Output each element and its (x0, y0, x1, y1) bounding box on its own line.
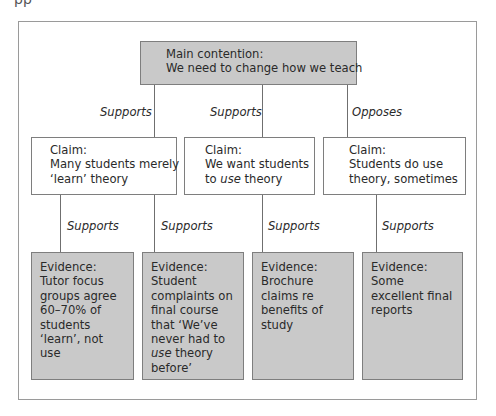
evidence-text: groups agree (40, 289, 133, 303)
main-contention-heading: Main contention: (166, 47, 356, 61)
claim-box: Claim: Many students merely ‘learn’ theo… (31, 137, 177, 195)
evidence-text: 60–70% of (40, 303, 133, 317)
evidence-text: use theory (151, 346, 243, 360)
connector-claim2-evidence3 (262, 195, 263, 252)
evidence-heading: Evidence: (40, 260, 133, 274)
evidence-box: Evidence: Brochure claims re benefits of… (252, 252, 354, 380)
evidence-box: Evidence: Student complaints on final co… (142, 252, 244, 380)
relation-label-opposes: Opposes (352, 105, 402, 119)
relation-label-supports: Supports (100, 105, 152, 119)
evidence-text: use (40, 346, 133, 360)
evidence-text: benefits of (261, 303, 353, 317)
claim-text: Many students merely (50, 157, 176, 171)
evidence-text: Student (151, 274, 243, 288)
evidence-text: study (261, 318, 353, 332)
evidence-text: final course (151, 303, 243, 317)
clipped-header-text: pp (14, 0, 32, 7)
connector-main-claim1 (154, 85, 155, 137)
evidence-text: excellent final (371, 289, 462, 303)
relation-label-supports: Supports (210, 105, 262, 119)
evidence-text: Brochure (261, 274, 353, 288)
connector-claim1-evidence1 (60, 195, 61, 252)
evidence-text: complaints on (151, 289, 243, 303)
connector-claim1-evidence2 (154, 195, 155, 252)
claim-heading: Claim: (349, 143, 465, 157)
evidence-text: before’ (151, 361, 243, 375)
evidence-heading: Evidence: (151, 260, 243, 274)
relation-label-supports: Supports (161, 219, 213, 233)
evidence-text: Tutor focus (40, 274, 133, 288)
evidence-heading: Evidence: (371, 260, 462, 274)
relation-label-supports: Supports (67, 219, 119, 233)
evidence-box: Evidence: Some excellent final reports (362, 252, 463, 380)
evidence-box: Evidence: Tutor focus groups agree 60–70… (31, 252, 134, 380)
evidence-text: ‘learn’, not (40, 332, 133, 346)
connector-main-claim2 (262, 85, 263, 137)
claim-box: Claim: We want students to use theory (184, 137, 315, 195)
claim-box: Claim: Students do use theory, sometimes (323, 137, 466, 195)
evidence-text: reports (371, 303, 462, 317)
evidence-heading: Evidence: (261, 260, 353, 274)
claim-text: theory, sometimes (349, 172, 465, 186)
claim-text: ‘learn’ theory (50, 172, 176, 186)
claim-text: to use theory (205, 172, 314, 186)
evidence-text: claims re (261, 289, 353, 303)
relation-label-supports: Supports (382, 219, 434, 233)
relation-label-supports: Supports (268, 219, 320, 233)
claim-text: We want students (205, 157, 314, 171)
main-contention-box: Main contention: We need to change how w… (140, 41, 357, 85)
main-contention-text: We need to change how we teach (166, 61, 356, 75)
claim-text: Students do use (349, 157, 465, 171)
evidence-text: students (40, 318, 133, 332)
evidence-text: that ‘We’ve (151, 318, 243, 332)
claim-heading: Claim: (205, 143, 314, 157)
claim-heading: Claim: (50, 143, 176, 157)
evidence-text: Some (371, 274, 462, 288)
connector-claim3-evidence4 (376, 195, 377, 252)
connector-main-claim3 (347, 85, 348, 137)
evidence-text: never had to (151, 332, 243, 346)
